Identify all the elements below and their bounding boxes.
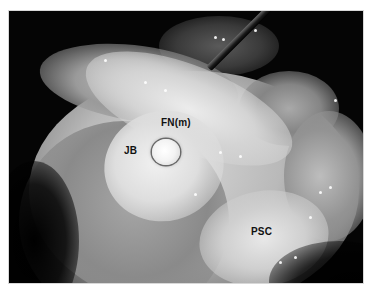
highlight-speck (329, 186, 332, 189)
label-jugular-bulb: JB (124, 146, 137, 156)
highlight-speck (214, 36, 217, 39)
surgical-photo: FN(m) JB PSC (9, 11, 363, 283)
highlight-speck (222, 38, 225, 41)
highlight-speck (319, 191, 322, 194)
highlight-speck (279, 261, 282, 264)
label-psc: PSC (251, 227, 272, 237)
highlight-speck (219, 151, 222, 154)
highlight-speck (239, 155, 242, 158)
label-facial-nerve: FN(m) (161, 118, 191, 128)
highlight-speck (144, 81, 147, 84)
bony-opening (152, 139, 180, 165)
highlight-speck (309, 216, 312, 219)
highlight-speck (294, 256, 297, 259)
highlight-speck (164, 89, 167, 92)
highlight-speck (104, 59, 107, 62)
highlight-speck (334, 99, 337, 102)
highlight-speck (254, 29, 257, 32)
highlight-speck (194, 193, 197, 196)
